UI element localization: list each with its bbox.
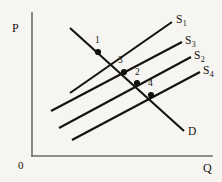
curve-label-s4-subscript: 4: [210, 70, 214, 79]
intersection-point-4: [148, 92, 154, 98]
curve-label-s3: S3: [185, 35, 195, 47]
curve-label-s3-subscript: 3: [192, 40, 196, 49]
demand-curve-d: [70, 28, 184, 131]
origin-label: 0: [18, 160, 24, 171]
curve-label-d: D: [188, 126, 196, 138]
curve-label-s4: S4: [203, 65, 213, 77]
intersection-point-2: [134, 80, 140, 86]
intersection-point-1: [95, 49, 101, 55]
curve-label-s3-base: S: [185, 34, 191, 46]
point-label-2: 2: [135, 68, 140, 78]
point-label-1: 1: [95, 36, 100, 46]
vertical-axis-label: P: [12, 22, 19, 34]
intersection-point-3: [121, 69, 127, 75]
curve-label-s1-base: S: [176, 13, 182, 25]
figure-canvas: [0, 0, 222, 182]
curve-label-s2-base: S: [194, 49, 200, 61]
curve-label-s2-subscript: 2: [201, 55, 205, 64]
supply-curve-s2: [59, 57, 191, 128]
horizontal-axis-label: Q: [203, 162, 212, 174]
curve-label-s4-base: S: [203, 64, 209, 76]
curve-label-s2: S2: [194, 50, 204, 62]
curve-label-s1: S1: [176, 14, 186, 26]
curve-label-s1-subscript: 1: [183, 19, 187, 28]
point-label-4: 4: [148, 79, 153, 89]
supply-demand-figure: P Q 0 S1 S3 S2 S4 D 1 3 2 4: [0, 0, 222, 182]
supply-curve-s3: [51, 42, 182, 111]
point-label-3: 3: [118, 56, 123, 66]
